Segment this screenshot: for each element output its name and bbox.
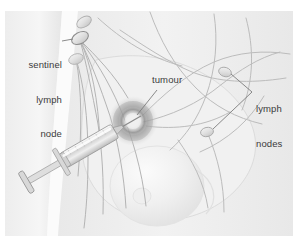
sentinel-label-line-2: lymph	[0, 94, 62, 106]
sentinel-lymph-node-label: sentinel lymph node	[0, 36, 62, 163]
sentinel-label-line-1: sentinel	[0, 59, 62, 71]
lymph-nodes-label: lymph nodes	[256, 80, 282, 172]
nipple	[133, 188, 151, 204]
lymph-nodes-label-line-2: nodes	[256, 138, 282, 150]
illustration-canvas: sentinel lymph node tumour lymph nodes	[0, 0, 300, 252]
lymph-nodes-label-line-1: lymph	[256, 103, 282, 115]
sentinel-label-line-3: node	[0, 128, 62, 140]
tumour-label: tumour	[152, 74, 182, 86]
